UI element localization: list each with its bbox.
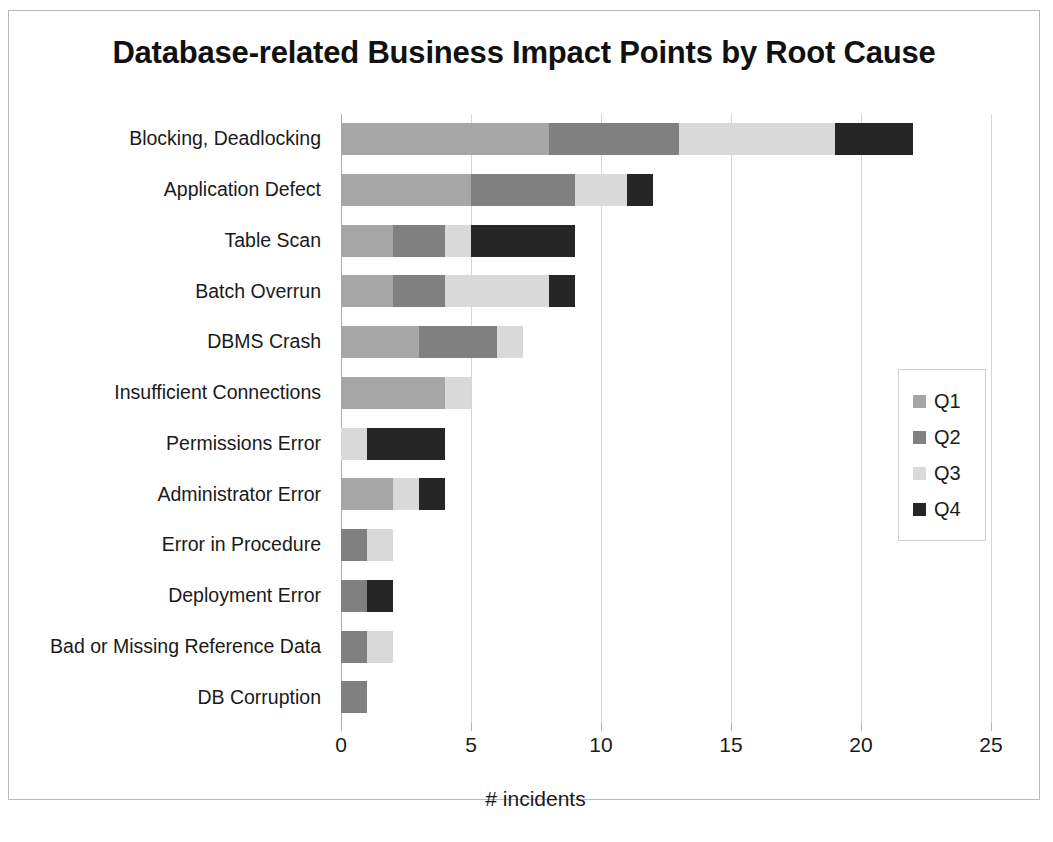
chart-title: Database-related Business Impact Points …	[9, 35, 1039, 71]
bar-segment-q2[interactable]	[341, 631, 367, 663]
bar-segment-q1[interactable]	[341, 123, 549, 155]
tickmark-20	[861, 723, 862, 731]
bar-segment-q3[interactable]	[497, 326, 523, 358]
legend-swatch-icon	[913, 395, 926, 408]
bar-row[interactable]	[341, 571, 991, 622]
x-tick-label: 20	[849, 733, 872, 757]
legend-label: Q4	[934, 499, 961, 519]
bar-segment-q2[interactable]	[419, 326, 497, 358]
bar-segment-q2[interactable]	[393, 225, 445, 257]
legend-item-q1[interactable]: Q1	[899, 383, 985, 419]
plot-area	[341, 114, 991, 723]
bar-segment-q3[interactable]	[367, 529, 393, 561]
bar-row[interactable]	[341, 317, 991, 368]
bar-row[interactable]	[341, 520, 991, 571]
bar-segment-q4[interactable]	[627, 174, 653, 206]
bar-segment-q1[interactable]	[341, 275, 393, 307]
bar-segment-q2[interactable]	[471, 174, 575, 206]
bar-segment-q4[interactable]	[835, 123, 913, 155]
tickmark-0	[341, 723, 342, 731]
tickmark-25	[991, 723, 992, 731]
x-tick-label: 0	[335, 733, 347, 757]
bar-segment-q2[interactable]	[341, 580, 367, 612]
legend-item-q4[interactable]: Q4	[899, 491, 985, 527]
bar-segment-q4[interactable]	[367, 580, 393, 612]
category-label: Permissions Error	[166, 434, 321, 454]
legend-item-q2[interactable]: Q2	[899, 419, 985, 455]
bar-segment-q3[interactable]	[367, 631, 393, 663]
category-label: Blocking, Deadlocking	[129, 129, 321, 149]
bar-row[interactable]	[341, 419, 991, 470]
bar-row[interactable]	[341, 469, 991, 520]
category-label: Administrator Error	[157, 485, 321, 505]
bar-segment-q1[interactable]	[341, 377, 445, 409]
page-root: Database-related Business Impact Points …	[0, 0, 1053, 842]
bar-segment-q1[interactable]	[341, 326, 419, 358]
bar-segment-q1[interactable]	[341, 174, 471, 206]
bar-segment-q2[interactable]	[393, 275, 445, 307]
category-label: Table Scan	[225, 231, 321, 251]
legend-label: Q3	[934, 463, 961, 483]
bar-segment-q1[interactable]	[341, 225, 393, 257]
legend-swatch-icon	[913, 503, 926, 516]
category-label: Error in Procedure	[162, 535, 321, 555]
category-label: Insufficient Connections	[114, 383, 321, 403]
legend-swatch-icon	[913, 431, 926, 444]
x-tick-label: 10	[589, 733, 612, 757]
category-label: Application Defect	[164, 180, 321, 200]
chart-legend: Q1Q2Q3Q4	[898, 369, 986, 541]
bar-row[interactable]	[341, 114, 991, 165]
bar-segment-q2[interactable]	[549, 123, 679, 155]
legend-swatch-icon	[913, 467, 926, 480]
bar-segment-q4[interactable]	[471, 225, 575, 257]
bar-row[interactable]	[341, 368, 991, 419]
bar-segment-q2[interactable]	[341, 529, 367, 561]
legend-item-q3[interactable]: Q3	[899, 455, 985, 491]
tickmark-10	[601, 723, 602, 731]
bar-segment-q3[interactable]	[445, 275, 549, 307]
bar-segment-q4[interactable]	[367, 428, 445, 460]
chart-frame: Database-related Business Impact Points …	[8, 10, 1040, 800]
bar-row[interactable]	[341, 216, 991, 267]
category-label: DBMS Crash	[207, 332, 321, 352]
bar-segment-q2[interactable]	[341, 681, 367, 713]
bar-segment-q4[interactable]	[549, 275, 575, 307]
category-label: Deployment Error	[168, 586, 321, 606]
bar-row[interactable]	[341, 266, 991, 317]
bar-segment-q3[interactable]	[341, 428, 367, 460]
bar-row[interactable]	[341, 165, 991, 216]
bar-segment-q3[interactable]	[393, 478, 419, 510]
category-label: DB Corruption	[197, 688, 321, 708]
x-tick-label: 15	[719, 733, 742, 757]
x-tick-label: 25	[979, 733, 1002, 757]
legend-label: Q1	[934, 391, 961, 411]
bar-segment-q1[interactable]	[341, 478, 393, 510]
bar-segment-q3[interactable]	[679, 123, 835, 155]
x-axis-title: # incidents	[9, 787, 1053, 811]
x-tick-label: 5	[465, 733, 477, 757]
tickmark-15	[731, 723, 732, 731]
legend-label: Q2	[934, 427, 961, 447]
y-axis-category-labels: Blocking, DeadlockingApplication DefectT…	[9, 114, 329, 723]
category-label: Batch Overrun	[195, 282, 321, 302]
category-label: Bad or Missing Reference Data	[50, 637, 321, 657]
tickmark-5	[471, 723, 472, 731]
bar-segment-q3[interactable]	[445, 377, 471, 409]
bar-segment-q3[interactable]	[575, 174, 627, 206]
x-axis-tick-labels: 0510152025	[9, 733, 1053, 765]
bar-row[interactable]	[341, 672, 991, 723]
bar-row[interactable]	[341, 622, 991, 673]
bar-segment-q4[interactable]	[419, 478, 445, 510]
bar-segment-q3[interactable]	[445, 225, 471, 257]
gridline-25	[991, 114, 992, 723]
